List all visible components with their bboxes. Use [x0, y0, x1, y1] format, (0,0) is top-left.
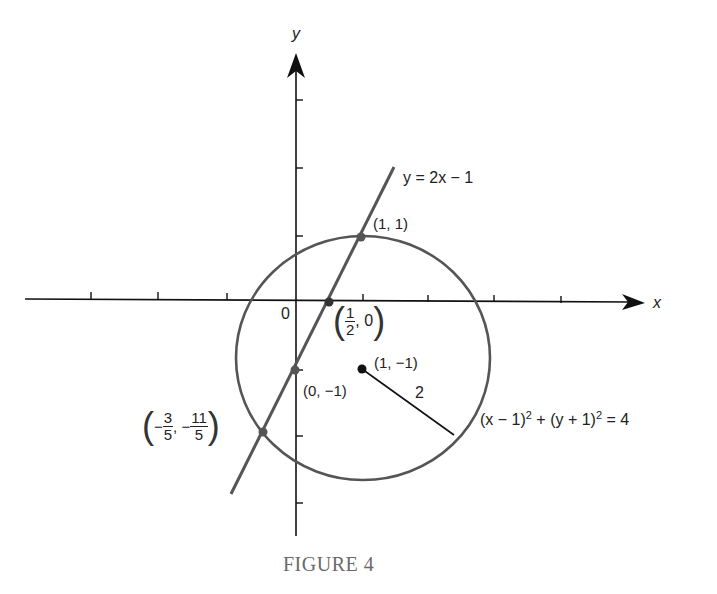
y-axis: [287, 53, 305, 536]
frac-den: 5: [164, 427, 172, 443]
y-axis-label: y: [292, 26, 300, 42]
frac-num: 3: [163, 410, 173, 427]
point-0-neg1-label: (0, −1): [303, 383, 347, 398]
frac-num: 1: [345, 305, 355, 322]
circle-equation-label: (x − 1)2 + (y + 1)2 = 4: [480, 410, 629, 428]
eq-part2: + (y + 1): [532, 411, 596, 428]
frac-den: 5: [195, 427, 203, 443]
circle-curve: [236, 236, 490, 480]
point-1-1-label: (1, 1): [373, 216, 408, 231]
point-neg3-5: [259, 428, 268, 437]
radius-segment: [362, 369, 454, 435]
origin-label: 0: [281, 306, 290, 322]
center-label: (1, −1): [374, 355, 418, 370]
point-0-neg1: [291, 366, 300, 375]
frac-num: 11: [190, 410, 208, 427]
paren-right: ): [208, 405, 220, 446]
point-half-rest: , 0: [355, 312, 373, 329]
figure-canvas: y x 0 y = 2x − 1 (1, 1) (12, 0) (1, −1) …: [0, 0, 717, 594]
fraction-half: 12: [345, 305, 355, 338]
center-point: [358, 365, 367, 374]
radius-label: 2: [415, 385, 424, 401]
line-equation-text: y = 2x − 1: [403, 169, 473, 186]
eq-part3: = 4: [602, 411, 629, 428]
point-1-1: [357, 233, 366, 242]
point-half-label: (12, 0): [333, 303, 385, 339]
fraction-neg3-5: 35: [163, 410, 173, 443]
paren-left: (: [142, 405, 154, 446]
eq-part1: (x − 1): [480, 411, 526, 428]
line-equation-label: y = 2x − 1: [403, 170, 473, 186]
figure-caption: FIGURE 4: [283, 553, 374, 576]
point-neg3-5-label: (−35, −115): [142, 408, 220, 444]
paren-left: (: [333, 300, 345, 341]
paren-right: ): [373, 300, 385, 341]
x-axis-label: x: [653, 295, 661, 311]
graph-svg: [0, 0, 717, 594]
frac-den: 2: [346, 322, 354, 338]
fraction-neg11-5: 115: [190, 410, 208, 443]
